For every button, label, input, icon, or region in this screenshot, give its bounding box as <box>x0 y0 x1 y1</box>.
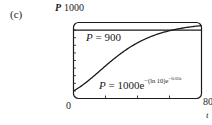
line-eq-rhs: = 900 <box>93 31 121 43</box>
curve-eq-exp2: −0.05t <box>168 76 181 81</box>
line-eq-lhs: P <box>86 31 93 43</box>
curve-eq-mid: = 1000e <box>106 79 145 91</box>
curve-annotation: P = 1000e−(ln 10)e−0.05t <box>99 76 181 91</box>
curve-eq-lhs: P <box>99 79 106 91</box>
curve-eq-exp: −(ln 10)e <box>144 77 168 84</box>
line-annotation: P = 900 <box>86 31 121 43</box>
plot-area <box>0 0 212 125</box>
